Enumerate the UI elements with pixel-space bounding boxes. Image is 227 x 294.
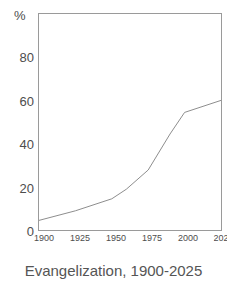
y-axis-tick-labels: 80 60 40 20 0	[0, 0, 34, 294]
y-tick-80: 80	[0, 51, 34, 64]
figure-caption: Evangelization, 1900-2025	[0, 262, 227, 280]
x-tick-1925: 1925	[70, 233, 90, 244]
x-tick-2000: 2000	[178, 233, 198, 244]
x-tick-1975: 1975	[142, 233, 162, 244]
x-tick-2025-clipped: 202	[213, 233, 227, 244]
chart-figure: % 80 60 40 20 0 1900 1925 1950 1975 2000…	[0, 0, 227, 294]
evangelization-line	[39, 100, 221, 220]
y-tick-60: 60	[0, 95, 34, 108]
x-axis-tick-labels: 1900 1925 1950 1975 2000 202	[0, 233, 227, 249]
plot-area	[38, 13, 222, 231]
y-tick-40: 40	[0, 138, 34, 151]
y-tick-20: 20	[0, 182, 34, 195]
data-line-svg	[39, 14, 221, 230]
x-tick-1900: 1900	[34, 233, 54, 244]
x-tick-1950: 1950	[106, 233, 126, 244]
